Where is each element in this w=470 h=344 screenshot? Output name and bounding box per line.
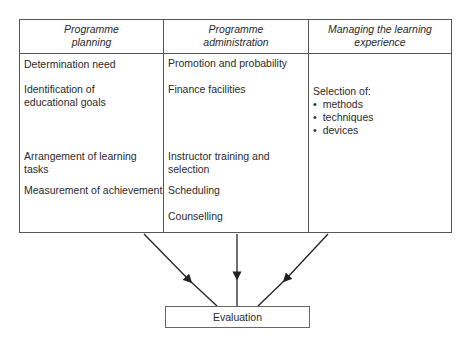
- evaluation-box: Evaluation: [165, 306, 310, 328]
- arrow-managing-to-evaluation: [286, 234, 328, 279]
- arrow-planning-to-evaluation: [144, 234, 189, 280]
- arrows: [0, 0, 470, 344]
